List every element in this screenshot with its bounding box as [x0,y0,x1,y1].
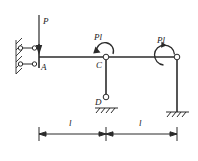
label-moment-C: Pl [94,33,102,42]
moment-arrow-at-right-support [155,45,175,65]
label-joint-A: A [41,63,47,72]
structural-frame-figure: P Pl Pl A C D l l [0,0,198,161]
ground-support-at-right-base [166,112,189,117]
pin-at-right-top [174,54,180,60]
label-joint-D: D [95,98,102,107]
pin-at-D [103,94,109,100]
label-moment-right: Pl [157,36,165,45]
wall-support-hatching [16,38,22,74]
hinge-at-C [103,54,109,60]
ground-support-at-D [95,108,118,113]
label-span-right: l [139,119,142,128]
label-span-left: l [69,119,72,128]
frame-drawing [0,0,198,161]
link-supports-at-A [18,46,36,66]
label-joint-C: C [96,61,102,70]
dimension-line [39,127,177,141]
label-load-P: P [43,17,49,26]
load-arrow-P [37,15,42,53]
